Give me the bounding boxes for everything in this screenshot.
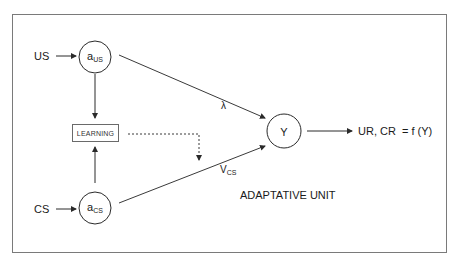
learning-label: LEARNING — [77, 130, 114, 137]
output-label: UR, CR = f (Y) — [358, 125, 432, 137]
input-cs-label: CS — [34, 203, 49, 215]
aus-to-y-arrow — [119, 55, 265, 118]
learning-box: LEARNING — [72, 124, 119, 142]
vcs-label: VCS — [220, 164, 236, 179]
aus-node-label: aUS — [87, 50, 103, 66]
y-node-label: Y — [280, 126, 287, 138]
learning-to-vcs-dashed-arrow — [128, 134, 199, 160]
acs-node-label: aCS — [87, 201, 103, 217]
input-us-label: US — [34, 50, 49, 62]
adaptive-unit-title: ADAPTATIVE UNIT — [240, 189, 336, 201]
lambda-label: λ — [221, 100, 226, 112]
